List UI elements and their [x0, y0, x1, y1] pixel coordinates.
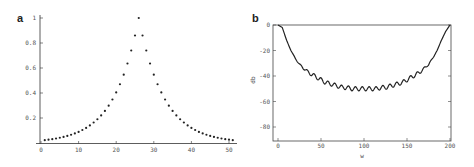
data-point: [217, 137, 219, 139]
data-point: [156, 83, 158, 85]
data-point: [198, 131, 200, 133]
data-point: [138, 17, 140, 19]
panel-a-x-tick-label: 30: [150, 146, 158, 153]
panel-a-x-tick-label: 50: [225, 146, 233, 153]
data-point: [85, 127, 87, 129]
panel-b-label: b: [252, 12, 259, 24]
panel-b-x-tick-label: 50: [317, 142, 325, 149]
panel-a-y-tick-label: 1: [32, 14, 36, 21]
panel-b-y-tick-label: 0: [266, 21, 270, 28]
data-point: [93, 121, 95, 123]
data-point: [119, 83, 121, 85]
data-point: [145, 49, 147, 51]
data-point: [111, 98, 113, 100]
data-point: [220, 137, 222, 139]
panel-b-x-ticks: 050100150200: [276, 138, 456, 149]
data-point: [160, 91, 162, 93]
panel-a-y-tick-label: 0.2: [25, 114, 36, 121]
data-point: [74, 132, 76, 134]
data-point: [164, 98, 166, 100]
panel-a-x-ticks: 01020304050: [39, 141, 233, 153]
data-point: [183, 121, 185, 123]
data-point: [232, 139, 234, 141]
data-point: [59, 137, 61, 139]
panel-a-x-tick-label: 40: [188, 146, 196, 153]
panel-a-x-tick-label: 20: [113, 146, 121, 153]
data-point: [66, 135, 68, 137]
data-point: [130, 49, 132, 51]
data-point: [51, 138, 53, 140]
data-point: [153, 74, 155, 76]
panel-b-y-tick-label: -60: [259, 98, 270, 105]
data-point: [126, 62, 128, 64]
data-point: [115, 91, 117, 93]
panel-b-y-tick-label: -20: [259, 47, 270, 54]
data-point: [89, 124, 91, 126]
panel-a-y-tick-label: 0.6: [25, 64, 36, 71]
data-point: [141, 34, 143, 36]
panel-b-x-tick-label: 100: [359, 142, 370, 149]
data-point: [100, 114, 102, 116]
panel-b-y-tick-label: -40: [259, 72, 270, 79]
panel-b-y-tick-label: -80: [259, 123, 270, 130]
panel-a-y-tick-label: 0.4: [25, 89, 36, 96]
panel-b: b 0-20-40-60-80 050100150200 db w: [249, 12, 456, 159]
panel-b-x-label: w: [360, 152, 364, 159]
data-point: [108, 105, 110, 107]
data-point: [172, 110, 174, 112]
panel-b-x-tick-label: 200: [445, 142, 456, 149]
data-point: [123, 74, 125, 76]
data-point: [70, 134, 72, 136]
panel-a-y-tick-label: 0.8: [25, 39, 36, 46]
data-point: [62, 136, 64, 138]
figure: a 0.20.40.60.81 01020304050 b 0-20-40-60…: [0, 0, 474, 167]
data-point: [190, 127, 192, 129]
panel-a-data-points: [44, 17, 234, 141]
data-point: [134, 34, 136, 36]
data-point: [78, 131, 80, 133]
data-point: [104, 110, 106, 112]
data-point: [47, 139, 49, 141]
panel-a: a 0.20.40.60.81 01020304050: [17, 12, 237, 153]
data-point: [224, 138, 226, 140]
data-point: [202, 132, 204, 134]
data-point: [81, 129, 83, 131]
panel-b-response-curve: [278, 25, 450, 91]
data-point: [228, 139, 230, 141]
data-point: [168, 105, 170, 107]
data-point: [209, 135, 211, 137]
data-point: [205, 134, 207, 136]
data-point: [55, 137, 57, 139]
data-point: [194, 129, 196, 131]
data-point: [44, 139, 46, 141]
data-point: [187, 124, 189, 126]
data-point: [96, 118, 98, 120]
data-point: [175, 114, 177, 116]
panel-b-x-tick-label: 150: [402, 142, 413, 149]
data-point: [179, 118, 181, 120]
panel-b-y-ticks: 0-20-40-60-80: [259, 21, 451, 130]
panel-a-x-tick-label: 10: [75, 146, 83, 153]
panel-b-frame: [273, 25, 451, 141]
panel-b-x-tick-label: 0: [276, 142, 280, 149]
panel-a-label: a: [17, 12, 24, 24]
panel-a-x-tick-label: 0: [39, 146, 43, 153]
data-point: [213, 136, 215, 138]
panel-b-y-label: db: [249, 76, 256, 84]
data-point: [149, 62, 151, 64]
